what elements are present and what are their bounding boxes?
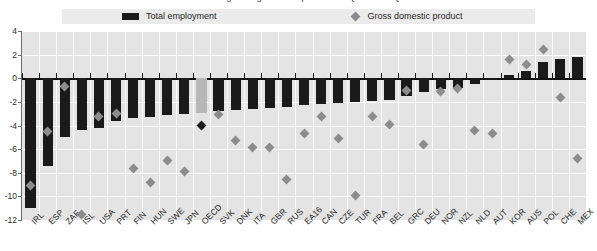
bar-total-employment: [77, 78, 87, 130]
x-axis-tick: [56, 73, 57, 78]
y-axis-tick-label: 0: [12, 74, 17, 83]
x-axis-tick: [501, 73, 502, 78]
grid-line-vertical: [193, 31, 194, 220]
x-axis-labels: IRLESPZAFISLUSAPRTFINHUNSWEJPNOECDSVKDNK…: [22, 220, 586, 251]
bar-total-employment: [248, 78, 258, 109]
x-axis-tick: [313, 73, 314, 78]
grid-line-vertical: [552, 31, 553, 220]
bar-total-employment: [299, 78, 309, 105]
legend-diamond-swatch-icon: [350, 12, 360, 22]
chart-legend: Total employment Gross domestic product: [62, 9, 535, 24]
x-axis-tick: [210, 73, 211, 78]
bar-total-employment: [538, 62, 548, 79]
x-axis-tick: [535, 73, 536, 78]
x-axis-tick: [398, 73, 399, 78]
x-axis-tick: [22, 73, 23, 78]
x-axis-tick: [518, 73, 519, 78]
grid-line-vertical: [466, 31, 467, 220]
grid-line-vertical: [56, 31, 57, 220]
x-axis-tick: [466, 73, 467, 78]
y-axis-tick-label: 2: [12, 51, 17, 60]
y-axis-tick-label: -10: [5, 192, 17, 201]
bar-total-employment: [43, 78, 53, 165]
bar-total-employment: [162, 78, 172, 115]
grid-line-vertical: [381, 31, 382, 220]
x-axis-tick: [330, 73, 331, 78]
bar-total-employment: [196, 78, 206, 112]
x-axis-tick: [278, 73, 279, 78]
x-axis-tick: [261, 73, 262, 78]
x-axis-tick: [107, 73, 108, 78]
x-axis-tick: [569, 73, 570, 78]
grid-line-vertical: [39, 31, 40, 220]
plot-area: [22, 31, 586, 220]
x-axis-tick: [415, 73, 416, 78]
grid-line-vertical: [295, 31, 296, 220]
page-title: Percentage change over the period 2007 Q…: [0, 0, 597, 2]
bar-total-employment: [419, 78, 429, 92]
bar-total-employment: [128, 78, 138, 118]
grid-line-vertical: [398, 31, 399, 220]
x-axis-tick: [73, 73, 74, 78]
grid-line-vertical: [176, 31, 177, 220]
bar-total-employment: [504, 75, 514, 79]
x-axis-tick: [90, 73, 91, 78]
x-axis-tick: [39, 73, 40, 78]
bar-total-employment: [282, 78, 292, 106]
x-axis-tick: [347, 73, 348, 78]
x-axis-tick: [125, 73, 126, 78]
legend-label-total-employment: Total employment: [146, 12, 217, 21]
bar-total-employment: [316, 78, 326, 104]
x-axis-tick: [364, 73, 365, 78]
x-axis-tick: [227, 73, 228, 78]
grid-line-vertical: [210, 31, 211, 220]
y-axis-tick-label: 4: [12, 27, 17, 36]
y-axis-tick-label: -8: [9, 169, 17, 178]
x-axis-tick: [193, 73, 194, 78]
grid-line-vertical: [330, 31, 331, 220]
x-axis-tick: [142, 73, 143, 78]
grid-line-vertical: [313, 31, 314, 220]
y-axis-tick-label: -2: [9, 98, 17, 107]
grid-line-vertical: [415, 31, 416, 220]
bar-total-employment: [470, 78, 480, 84]
x-axis-tick: [176, 73, 177, 78]
legend-item-total-employment: Total employment: [122, 12, 217, 21]
grid-line-vertical: [483, 31, 484, 220]
bar-total-employment: [350, 78, 360, 102]
grid-line-vertical: [364, 31, 365, 220]
x-axis-tick: [244, 73, 245, 78]
bar-total-employment: [487, 78, 497, 80]
x-axis-tick: [295, 73, 296, 78]
grid-line-vertical: [261, 31, 262, 220]
bar-total-employment: [555, 59, 565, 78]
legend-bar-swatch-icon: [122, 13, 139, 20]
grid-line-vertical: [569, 31, 570, 220]
bar-total-employment: [367, 78, 377, 100]
grid-line-vertical: [535, 31, 536, 220]
grid-line-vertical: [73, 31, 74, 220]
grid-line-vertical: [125, 31, 126, 220]
x-axis-tick: [483, 73, 484, 78]
x-axis-tick: [432, 73, 433, 78]
grid-line-vertical: [107, 31, 108, 220]
grid-line-vertical: [347, 31, 348, 220]
y-axis: 420-2-4-6-8-10-12: [0, 31, 22, 220]
grid-line-vertical: [90, 31, 91, 220]
x-axis-tick: [381, 73, 382, 78]
grid-line-vertical: [432, 31, 433, 220]
bar-total-employment: [213, 78, 223, 111]
grid-line-vertical: [142, 31, 143, 220]
bar-total-employment: [521, 71, 531, 78]
bar-total-employment: [572, 57, 582, 78]
grid-line-vertical: [227, 31, 228, 220]
bar-total-employment: [384, 78, 394, 99]
bar-total-employment: [231, 78, 241, 110]
chart-title-strip: Percentage change over the period 2007 Q…: [0, 0, 597, 2]
y-axis-tick-label: -6: [9, 145, 17, 154]
grid-line-vertical: [278, 31, 279, 220]
legend-label-gross-domestic-product: Gross domestic product: [368, 12, 463, 21]
grid-line-vertical: [244, 31, 245, 220]
bar-total-employment: [333, 78, 343, 103]
x-axis-tick: [449, 73, 450, 78]
